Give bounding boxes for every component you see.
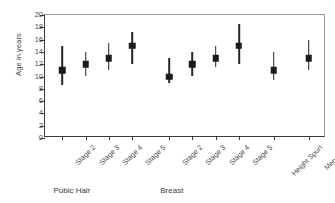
plot-inner: 02468101214161820 — [45, 15, 324, 136]
y-tick-label: 8 — [39, 84, 43, 93]
y-tick-label: 14 — [35, 47, 43, 56]
x-axis-tick — [216, 136, 217, 140]
x-axis-tick — [309, 136, 310, 140]
x-tick-label: Height Spurt — [289, 143, 324, 178]
x-tick-label: Stage 3 — [97, 143, 121, 167]
x-tick-label: Stage 5 — [143, 143, 167, 167]
x-axis-tick — [109, 136, 110, 140]
x-axis-tick — [239, 136, 240, 140]
error-bar — [62, 46, 64, 85]
data-point-marker — [270, 67, 277, 74]
x-tick-label: Menarche — [322, 143, 335, 172]
y-tick-label: 4 — [39, 108, 43, 117]
y-tick-label: 6 — [39, 96, 43, 105]
x-tick-label: Stage 4 — [227, 143, 251, 167]
y-tick-label: 10 — [35, 72, 43, 81]
data-point-marker — [82, 61, 89, 68]
x-tick-label: Stage 3 — [204, 143, 228, 167]
x-axis-tick — [86, 136, 87, 140]
group-label: Pubic Hair — [53, 186, 90, 195]
x-tick-label: Stage 2 — [74, 143, 98, 167]
x-axis-tick — [132, 136, 133, 140]
data-point-marker — [236, 43, 243, 50]
y-tick-label: 12 — [35, 59, 43, 68]
x-axis-tick — [274, 136, 275, 140]
data-point-marker — [166, 73, 173, 80]
error-bar — [273, 52, 275, 80]
data-point-marker — [129, 43, 136, 50]
y-tick-label: 0 — [39, 133, 43, 142]
x-axis-tick — [192, 136, 193, 140]
y-tick-label: 16 — [35, 35, 43, 44]
data-point-marker — [212, 55, 219, 62]
y-tick-label: 18 — [35, 22, 43, 31]
y-tick-label: 2 — [39, 121, 43, 130]
x-axis-tick — [169, 136, 170, 140]
plot-area: 02468101214161820 — [44, 14, 325, 137]
x-tick-label: Stage 5 — [250, 143, 274, 167]
data-point-marker — [305, 55, 312, 62]
data-point-marker — [59, 67, 66, 74]
y-axis-title: Age in years — [14, 15, 23, 95]
data-point-marker — [106, 55, 113, 62]
chart-figure: Age in years 02468101214161820 Stage 2St… — [0, 0, 335, 203]
x-axis-tick — [62, 136, 63, 140]
x-tick-label: Stage 2 — [180, 143, 204, 167]
x-tick-label: Stage 4 — [120, 143, 144, 167]
group-label: Breast — [160, 186, 183, 195]
data-point-marker — [189, 61, 196, 68]
y-tick-label: 20 — [35, 10, 43, 19]
